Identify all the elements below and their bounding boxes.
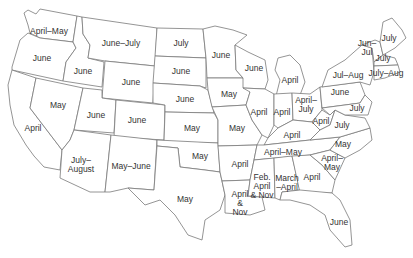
- state-label-oklahoma: May: [192, 152, 208, 161]
- state-label-massachusetts: July: [375, 54, 390, 63]
- state-label-ohio: April–July: [295, 96, 317, 114]
- state-label-washington: April–May: [30, 27, 68, 36]
- state-label-south-carolina: April–May: [321, 154, 343, 172]
- state-label-illinois: April: [250, 108, 267, 117]
- state-label-california: April: [24, 124, 41, 133]
- state-label-north-carolina: May: [335, 140, 351, 149]
- state-label-north-dakota: July: [173, 39, 188, 48]
- state-label-texas: May: [177, 195, 193, 204]
- state-label-montana: June–July: [102, 39, 140, 48]
- state-label-pennsylvania: June: [331, 88, 349, 97]
- state-label-florida: June: [330, 218, 348, 227]
- state-label-wyoming: June: [122, 78, 140, 87]
- state-label-south-dakota: June: [172, 67, 190, 76]
- state-label-mississippi: Feb.April& Nov: [250, 173, 273, 200]
- state-label-west-virginia: April: [312, 117, 329, 126]
- state-label-new-york: Jul–Aug: [333, 71, 364, 80]
- state-label-maryland-delaware: July: [349, 104, 364, 113]
- state-label-idaho: June: [74, 67, 92, 76]
- state-label-utah: June: [87, 111, 105, 120]
- state-label-arizona: July–August: [68, 156, 94, 174]
- state-label-nevada: May: [50, 101, 66, 110]
- state-label-missouri: May: [229, 124, 245, 133]
- state-label-connecticut-rhode-island: July–Aug: [369, 69, 404, 78]
- state-label-new-mexico: May–June: [111, 162, 150, 171]
- state-label-colorado: June: [128, 116, 146, 125]
- us-map: [0, 0, 413, 258]
- state-label-arkansas: April: [231, 160, 248, 169]
- state-label-tennessee: April–May: [264, 148, 302, 157]
- state-label-louisiana: April&Nov: [231, 190, 248, 217]
- state-label-kentucky: April: [283, 131, 300, 140]
- state-label-alabama: March–April: [275, 174, 299, 192]
- state-label-nebraska: June: [176, 95, 194, 104]
- state-label-wisconsin: June: [245, 64, 263, 73]
- state-label-maine: July: [381, 34, 396, 43]
- state-label-oregon: June: [33, 54, 51, 63]
- state-label-michigan: April: [281, 76, 298, 85]
- state-label-georgia: April: [303, 173, 320, 182]
- state-label-minnesota: June: [212, 51, 230, 60]
- state-label-iowa: May: [221, 90, 237, 99]
- state-label-vermont-new-hampshire: Jun–Jul: [358, 39, 376, 57]
- state-label-indiana: April: [273, 108, 290, 117]
- state-label-virginia: July: [334, 121, 349, 130]
- state-label-kansas: May: [184, 124, 200, 133]
